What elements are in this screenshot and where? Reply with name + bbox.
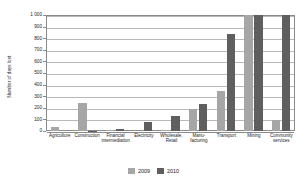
y-axis-tick	[43, 131, 46, 132]
bar	[227, 34, 236, 131]
x-axis-tick-label: Mining	[240, 133, 267, 144]
bar	[51, 127, 60, 131]
bar-groups	[46, 15, 295, 131]
bar-group	[46, 15, 74, 131]
y-axis-title-label: Number of days lost	[8, 55, 13, 97]
bar-group	[184, 15, 212, 131]
y-axis-tick-label: 700	[14, 47, 42, 52]
bar-group	[101, 15, 129, 131]
bar	[282, 15, 291, 131]
bar	[244, 15, 253, 131]
x-axis-tick-label: Manu-facturing	[185, 133, 212, 144]
bar	[272, 120, 281, 131]
legend-swatch	[128, 168, 135, 174]
x-axis-tick-label: Agriculture	[46, 133, 73, 144]
x-axis-tick-label: Electricity	[130, 133, 157, 144]
bar-chart: Number of days lost 1 000900800700600500…	[0, 0, 307, 189]
bar-group	[267, 15, 295, 131]
y-axis-tick-label: 1 000	[14, 12, 42, 17]
x-axis-tick-label: Transport	[213, 133, 240, 144]
bar	[78, 103, 87, 131]
legend-label: 2010	[167, 168, 179, 174]
chart-legend: 20092010	[0, 168, 307, 174]
x-axis-tick-label: Construction	[73, 133, 100, 144]
y-axis-tick-label: 600	[14, 59, 42, 64]
bar-group	[74, 15, 102, 131]
y-axis-tick-label: 500	[14, 70, 42, 75]
y-axis-tick-label: 800	[14, 36, 42, 41]
bar-group	[240, 15, 268, 131]
y-axis-tick-label: 400	[14, 82, 42, 87]
x-axis-labels: AgricultureConstructionFinancialintermed…	[46, 133, 295, 144]
bar	[106, 130, 115, 131]
bar	[189, 109, 198, 131]
legend-swatch	[157, 168, 164, 174]
legend-item[interactable]: 2010	[157, 168, 179, 174]
y-axis-tick-label: 300	[14, 94, 42, 99]
bar-group	[157, 15, 185, 131]
x-axis-tick-label: Wholesale,Retail	[158, 133, 185, 144]
bar-group	[212, 15, 240, 131]
bar	[161, 130, 170, 131]
bar	[116, 129, 125, 131]
y-axis-tick-label: 900	[14, 24, 42, 29]
bar	[171, 116, 180, 131]
legend-item[interactable]: 2009	[128, 168, 150, 174]
bar	[217, 91, 226, 131]
x-axis-tick-label: Financialintermediation	[101, 133, 130, 144]
x-axis-tick-label: Communityservices	[268, 133, 295, 144]
y-axis-tick-label: 200	[14, 105, 42, 110]
bar	[144, 122, 153, 131]
bar-group	[129, 15, 157, 131]
bar	[199, 104, 208, 131]
legend-label: 2009	[138, 168, 150, 174]
bar	[254, 15, 263, 131]
y-axis-tick-label: 100	[14, 117, 42, 122]
y-axis-tick-label: 0	[14, 128, 42, 133]
